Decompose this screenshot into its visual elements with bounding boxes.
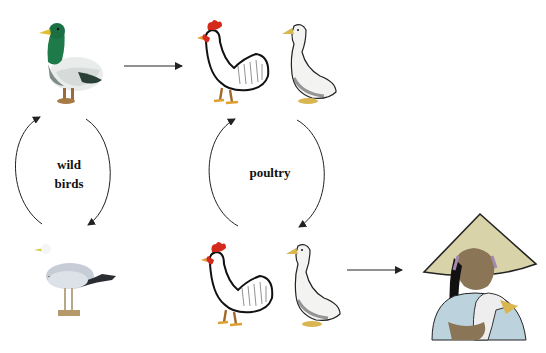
rooster-icon-top: [194, 16, 272, 106]
arrow-poultry-bottom-to-top: [209, 119, 238, 226]
white-duck-icon-bottom: [284, 240, 346, 330]
poultry-label-line1: poultry: [243, 163, 297, 182]
white-duck-icon-top: [280, 20, 342, 106]
poultry-label: poultry: [243, 163, 297, 182]
wild-birds-label-line2: birds: [48, 174, 90, 193]
rooster-icon-bottom: [198, 238, 276, 328]
mallard-duck-icon: [34, 20, 106, 106]
wild-birds-label: wild birds: [48, 155, 90, 193]
arrow-poultry-top-to-bottom: [297, 120, 324, 227]
wild-birds-label-line1: wild: [48, 155, 90, 174]
farmer-woman-holding-duck-icon: [418, 210, 538, 345]
seagull-icon: [30, 240, 120, 320]
arrow-gull-to-mallard: [15, 117, 42, 224]
